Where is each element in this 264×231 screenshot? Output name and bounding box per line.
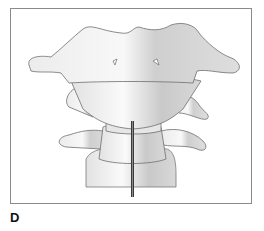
panel-label: D bbox=[10, 211, 19, 225]
illustration-frame bbox=[10, 8, 252, 204]
c2-body bbox=[71, 77, 201, 130]
vertebrae-illustration bbox=[11, 9, 252, 204]
c1-atlas bbox=[29, 23, 240, 83]
